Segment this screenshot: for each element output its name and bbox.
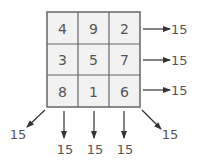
anti-diagonal-arrow-icon <box>27 110 45 127</box>
row-1-sum: 15 <box>171 53 188 68</box>
cell-r0-c0: 4 <box>58 21 67 37</box>
cell-r2-c2: 6 <box>120 84 129 100</box>
row-sum-arrows: 15 15 15 <box>143 22 188 98</box>
main-diagonal-sum: 15 <box>162 127 179 142</box>
col-0-sum: 15 <box>57 142 74 157</box>
cell-r1-c0: 3 <box>58 52 67 68</box>
row-0-sum: 15 <box>171 22 188 37</box>
col-2-sum: 15 <box>117 142 134 157</box>
cell-r1-c1: 5 <box>89 52 98 68</box>
anti-diagonal-sum: 15 <box>10 127 27 142</box>
cell-r1-c2: 7 <box>120 52 129 68</box>
magic-square-diagram: 4 9 2 3 5 7 8 1 6 15 15 15 15 15 15 15 1… <box>0 0 202 162</box>
magic-square-grid: 4 9 2 3 5 7 8 1 6 <box>47 12 140 107</box>
cell-r2-c0: 8 <box>58 84 67 100</box>
row-2-sum: 15 <box>171 83 188 98</box>
cell-r2-c1: 1 <box>89 84 98 100</box>
cell-r0-c2: 2 <box>120 21 129 37</box>
col-1-sum: 15 <box>87 142 104 157</box>
column-sum-arrows: 15 15 15 <box>57 111 134 157</box>
main-diagonal-arrow-icon <box>142 110 161 129</box>
cell-r0-c1: 9 <box>89 21 98 37</box>
